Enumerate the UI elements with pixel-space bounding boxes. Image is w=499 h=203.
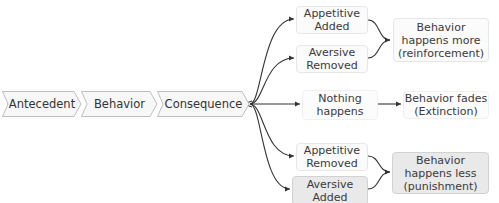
antecedent-step: Antecedent bbox=[2, 91, 82, 117]
aversive-added-box: Aversive Added bbox=[292, 176, 368, 203]
nothing-happens-box: Nothing happens bbox=[302, 90, 378, 120]
punishment-box: Behavior happens less (punishment) bbox=[392, 152, 489, 194]
consequence-label: Consequence bbox=[165, 97, 243, 111]
consequence-step: Consequence bbox=[157, 91, 250, 117]
reinforcement-box: Behavior happens more (reinforcement) bbox=[393, 18, 489, 62]
aversive-removed-box: Aversive Removed bbox=[296, 45, 368, 73]
antecedent-label: Antecedent bbox=[9, 97, 75, 111]
appetitive-added-box: Appetitive Added bbox=[296, 6, 368, 34]
appetitive-removed-box: Appetitive Removed bbox=[296, 143, 368, 171]
abc-diagram: Antecedent Behavior Consequence Appetiti… bbox=[0, 0, 499, 203]
extinction-box: Behavior fades (Extinction) bbox=[403, 91, 489, 119]
behavior-label: Behavior bbox=[94, 97, 145, 111]
behavior-step: Behavior bbox=[81, 91, 158, 117]
